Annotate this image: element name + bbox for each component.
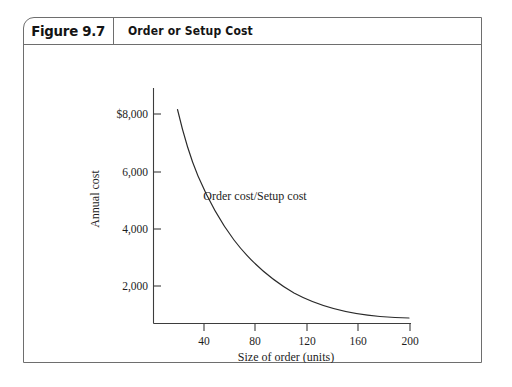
order-cost-curve [178, 110, 410, 319]
figure-container: Figure 9.7 Order or Setup Cost [0, 0, 512, 387]
figure-number-label: Figure 9.7 [32, 23, 106, 39]
x-axis-title: Size of order (units) [238, 350, 334, 363]
y-tick-label-6000: 6,000 [122, 166, 148, 179]
figure-number-cell: Figure 9.7 [24, 18, 114, 44]
chart-svg: $8,000 6,000 4,000 2,000 40 80 120 160 2… [24, 45, 481, 363]
y-tick-label-4000: 4,000 [122, 223, 148, 236]
y-tick-label-8000: $8,000 [116, 108, 148, 121]
x-tick-label-120: 120 [298, 335, 316, 347]
y-tick-label-2000: 2,000 [122, 280, 148, 293]
curve-annotation: Order cost/Setup cost [203, 189, 307, 203]
x-tick-label-40: 40 [198, 335, 210, 347]
y-axis-ticks [154, 114, 162, 286]
x-tick-label-200: 200 [401, 335, 419, 347]
figure-title-cell: Order or Setup Cost [114, 18, 481, 44]
x-axis-ticks [204, 324, 410, 332]
figure-frame: Figure 9.7 Order or Setup Cost [23, 17, 482, 363]
x-tick-label-160: 160 [349, 335, 367, 347]
figure-header: Figure 9.7 Order or Setup Cost [24, 18, 481, 45]
x-tick-label-80: 80 [249, 335, 261, 347]
y-axis-title: Annual cost [88, 170, 102, 228]
figure-title-label: Order or Setup Cost [128, 24, 253, 38]
plot-area: $8,000 6,000 4,000 2,000 40 80 120 160 2… [24, 45, 481, 363]
